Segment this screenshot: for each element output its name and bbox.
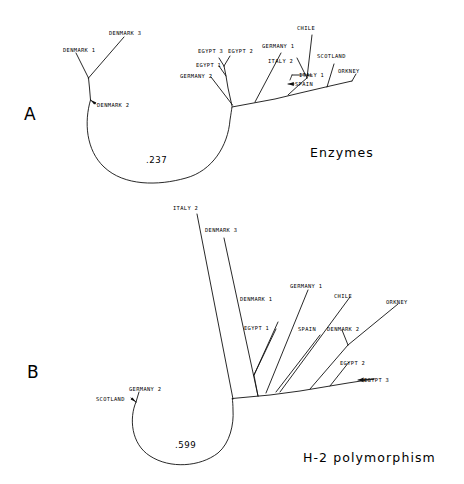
panel-b-label-egypt2: EGYPT 2 bbox=[340, 360, 365, 366]
panel-a-letter: A bbox=[24, 104, 36, 124]
panel-a-branch-denmark3 bbox=[89, 37, 125, 78]
panel-b-distance-label: .599 bbox=[175, 440, 196, 450]
panel-a-label-egypt3: EGYPT 3 bbox=[198, 48, 223, 54]
panel-b-label-denmark3: DENMARK 3 bbox=[205, 227, 237, 233]
panel-a-label-egypt2: EGYPT 2 bbox=[228, 48, 253, 54]
panel-a-branch-germany2 bbox=[211, 77, 233, 105]
panel-a-distance-label: .237 bbox=[146, 155, 167, 165]
panel-a: DENMARK 3 DENMARK 1 DENMARK 2 GERMANY 2 … bbox=[24, 25, 374, 183]
panel-b-branch-spain bbox=[276, 335, 320, 392]
panel-a-label-egypt1: EGYPT 1 bbox=[196, 62, 221, 68]
panel-a-label-spain: SPAIN bbox=[295, 81, 313, 87]
panel-b-branch-germany2 bbox=[136, 392, 139, 402]
panel-a-branch-egypt2 bbox=[224, 56, 230, 66]
panel-b-label-italy2: ITALY 2 bbox=[173, 205, 198, 211]
panel-a-italy1-connector bbox=[290, 75, 292, 80]
panel-b-branch-denmark2 bbox=[342, 330, 348, 345]
panel-a-branch-denmark1 bbox=[76, 53, 89, 78]
panel-a-label-germany1: GERMANY 1 bbox=[262, 43, 294, 49]
panel-b-label-chile: CHILE bbox=[334, 293, 352, 299]
panel-b-root-loop bbox=[132, 399, 233, 465]
panel-a-label-italy1: ITALY 1 bbox=[299, 72, 324, 78]
panel-b-label-egypt3: EGYPT 3 bbox=[364, 377, 389, 383]
panel-b-label-spain: SPAIN bbox=[298, 326, 316, 332]
panel-a-root-loop bbox=[87, 100, 232, 183]
panel-b-denmark1-egypt1-stem bbox=[254, 375, 258, 396]
panel-b-letter: B bbox=[27, 362, 39, 382]
panel-b-branch-denmark3 bbox=[224, 238, 258, 396]
panel-a-label-chile: CHILE bbox=[297, 25, 315, 31]
panel-b-branch-chile bbox=[280, 297, 350, 392]
panel-b-branch-italy2 bbox=[197, 214, 233, 399]
phylogenetic-tree-figure: DENMARK 3 DENMARK 1 DENMARK 2 GERMANY 2 … bbox=[0, 0, 464, 484]
panel-a-egypt-stem bbox=[224, 66, 232, 106]
panel-b-label-orkney: ORKNEY bbox=[386, 299, 408, 305]
figure-root: DENMARK 3 DENMARK 1 DENMARK 2 GERMANY 2 … bbox=[0, 0, 464, 484]
panel-a-caption: Enzymes bbox=[310, 145, 374, 160]
panel-b-label-denmark1: DENMARK 1 bbox=[240, 296, 272, 302]
panel-a-label-denmark1: DENMARK 1 bbox=[63, 47, 95, 53]
panel-b-label-egypt1: EGYPT 1 bbox=[244, 325, 269, 331]
panel-b-branch-egypt1 bbox=[254, 329, 276, 375]
panel-b-label-germany2: GERMANY 2 bbox=[129, 386, 161, 392]
panel-a-arrow-spain bbox=[288, 82, 294, 86]
panel-a-label-germany2: GERMANY 2 bbox=[180, 73, 212, 79]
panel-b-denmark2-stem bbox=[310, 345, 348, 389]
panel-b-caption: H-2 polymorphism bbox=[303, 450, 436, 465]
panel-b-branch-orkney bbox=[348, 304, 398, 345]
panel-a-label-scotland: SCOTLAND bbox=[317, 53, 346, 59]
panel-a-label-denmark2: DENMARK 2 bbox=[97, 102, 129, 108]
panel-b-baseline bbox=[232, 379, 374, 399]
panel-a-label-italy2: ITALY 2 bbox=[268, 58, 293, 64]
panel-a-label-orkney: ORKNEY bbox=[338, 68, 360, 74]
panel-a-denmark-stem bbox=[89, 78, 91, 100]
panel-a-branch-scotland bbox=[327, 64, 334, 87]
panel-b-label-denmark2: DENMARK 2 bbox=[327, 326, 359, 332]
panel-a-branch-orkney bbox=[352, 74, 356, 81]
panel-b: ITALY 2 DENMARK 3 DENMARK 1 EGYPT 1 GERM… bbox=[27, 205, 436, 465]
panel-b-label-germany1: GERMANY 1 bbox=[290, 283, 322, 289]
panel-b-label-scotland: SCOTLAND bbox=[96, 396, 125, 402]
panel-a-label-denmark3: DENMARK 3 bbox=[109, 30, 141, 36]
